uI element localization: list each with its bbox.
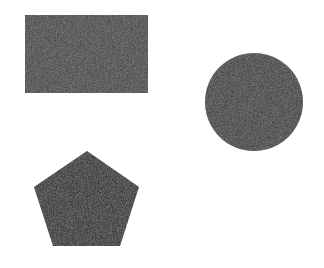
rectangle-shape [25, 15, 148, 93]
circle-shape [205, 53, 303, 151]
pentagon-shape [34, 151, 139, 246]
shapes-canvas [0, 0, 324, 268]
